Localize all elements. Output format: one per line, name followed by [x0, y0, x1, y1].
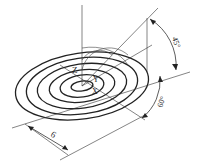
- dim-6-line: [28, 126, 68, 150]
- diagram-canvas: Z Y X 45° 60° 6: [0, 0, 201, 166]
- axes: [12, 5, 190, 160]
- z-axis-label: Z: [72, 65, 78, 75]
- vertical-arcs: [82, 47, 128, 70]
- angle-45-arc: [150, 19, 176, 70]
- y-axis-label: Y: [93, 75, 99, 84]
- dim-ext-right: [60, 115, 145, 160]
- angle-45-label: 45°: [170, 36, 182, 50]
- x-axis-label: X: [92, 87, 98, 96]
- dimension-6-label: 6: [49, 129, 58, 140]
